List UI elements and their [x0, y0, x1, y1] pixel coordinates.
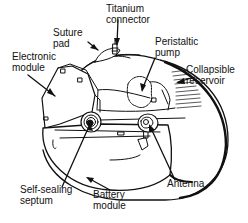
label-line: module — [93, 200, 126, 211]
label-self-sealing-septum: Self-sealing septum — [20, 184, 72, 206]
peristaltic-pump — [127, 77, 152, 108]
label-battery-module: Battery module — [93, 189, 126, 211]
label-line: module — [12, 62, 56, 73]
label-line: pad — [53, 38, 82, 49]
label-line: Self-sealing — [20, 184, 72, 195]
label-line: Titanium — [106, 3, 150, 14]
label-peristaltic-pump: Peristaltic pump — [155, 36, 198, 58]
label-titanium-connector: Titanium connector — [106, 3, 150, 25]
label-line: Battery — [93, 189, 126, 200]
label-line: septum — [20, 195, 72, 206]
label-line: Antenna — [167, 178, 204, 189]
label-suture-pad: Suture pad — [53, 27, 82, 49]
label-line: Collapsible — [186, 64, 235, 75]
label-line: pump — [155, 47, 198, 58]
label-line: connector — [106, 14, 150, 25]
label-collapsible-reservoir: Collapsible reservoir — [186, 64, 235, 86]
label-line: Suture — [53, 27, 82, 38]
battery-module — [43, 124, 172, 190]
antenna-part — [138, 114, 158, 132]
label-line: Electronic — [12, 51, 56, 62]
label-line: Peristaltic — [155, 36, 198, 47]
label-electronic-module: Electronic module — [12, 51, 56, 73]
label-line: reservoir — [186, 75, 235, 86]
label-antenna: Antenna — [167, 178, 204, 189]
